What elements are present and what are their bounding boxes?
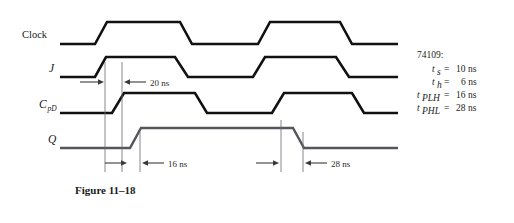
spec-param-ts: t s = 10 ns — [432, 64, 477, 77]
signal-label-clock: Clock — [22, 29, 48, 40]
spec-param-tplh-subscript: PLH — [421, 93, 441, 103]
waveform-j — [60, 57, 398, 77]
figure-caption: Figure 11–18 — [75, 184, 136, 196]
dimension-28ns: 28 ns — [305, 159, 351, 169]
spec-param-tphl-symbol: t — [417, 103, 420, 113]
dimension-label-16ns: 16 ns — [168, 159, 188, 169]
waveform-q — [60, 128, 398, 148]
spec-param-th-equals: = — [444, 77, 449, 87]
spec-param-th-value: 6 ns — [461, 77, 477, 87]
spec-param-tphl-subscript: PHL — [421, 106, 440, 116]
spec-param-th: t h = 6 ns — [432, 77, 477, 90]
spec-param-ts-value: 10 ns — [456, 64, 477, 74]
spec-block: 74109: t s = 10 ns t h = 6 ns t PLH = 16… — [417, 50, 477, 116]
timing-diagram-figure: Clock J C pD Q 20 ns — [0, 0, 514, 223]
spec-param-ts-symbol: t — [432, 64, 435, 74]
signal-label-q: Q — [48, 133, 57, 145]
signal-label-cpd-main: C — [39, 98, 47, 110]
spec-param-th-symbol: t — [432, 77, 435, 87]
dimension-20ns: 20 ns — [124, 78, 170, 88]
dimension-16ns: 16 ns — [142, 159, 188, 169]
signal-label-cpd-subscript: pD — [47, 104, 58, 113]
dimension-setup-arrow — [80, 79, 104, 85]
spec-param-tplh-value: 16 ns — [456, 90, 477, 100]
spec-device-name: 74109: — [417, 50, 443, 60]
spec-param-th-subscript: h — [437, 80, 442, 90]
spec-param-tphl-equals: = — [444, 103, 449, 113]
signal-label-cpd: C pD — [39, 98, 57, 113]
waveform-cpd — [60, 93, 398, 113]
spec-param-ts-subscript: s — [437, 67, 441, 77]
spec-param-tphl: t PHL = 28 ns — [417, 103, 477, 116]
timing-waveform-canvas: Clock J C pD Q 20 ns — [0, 0, 514, 223]
spec-param-tplh: t PLH = 16 ns — [417, 90, 477, 103]
spec-param-ts-equals: = — [444, 64, 449, 74]
dimension-label-28ns: 28 ns — [331, 159, 351, 169]
signal-label-j: J — [49, 62, 55, 74]
spec-param-tplh-symbol: t — [417, 90, 420, 100]
spec-param-tphl-value: 28 ns — [456, 103, 477, 113]
dimension-tphl-arrow — [256, 160, 279, 166]
waveform-clock — [60, 22, 398, 44]
dimension-tplh-arrow — [105, 160, 127, 166]
dimension-label-20ns: 20 ns — [150, 78, 170, 88]
spec-param-tplh-equals: = — [444, 90, 449, 100]
